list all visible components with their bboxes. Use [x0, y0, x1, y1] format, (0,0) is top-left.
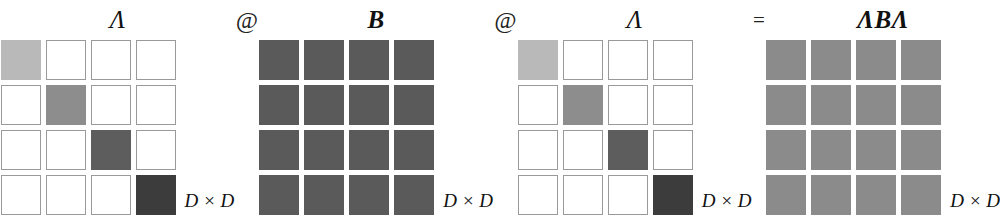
matrix-cell — [259, 130, 299, 170]
matrix-grid-lambda-left — [1, 40, 176, 215]
matrix-block-b: B D × D — [259, 0, 493, 215]
matrix-cell — [259, 40, 299, 80]
matrix-block-result: ΛBΛ D × D — [766, 0, 1000, 215]
matrix-cell — [563, 85, 603, 125]
matrix-cell — [349, 85, 389, 125]
matrix-label-b: B — [368, 0, 385, 40]
dimension-label-lambda-right: D × D — [693, 191, 752, 215]
matrix-cell — [91, 130, 131, 170]
matrix-label-lambda-right: Λ — [627, 0, 643, 40]
matrix-block-lambda-left: Λ D × D — [1, 0, 235, 215]
matrix-cell — [91, 85, 131, 125]
operator-matmul-2: @ — [494, 0, 516, 40]
matrix-cell — [563, 130, 603, 170]
matrix-cell — [563, 175, 603, 215]
matrix-cell — [394, 130, 434, 170]
matrix-cell — [1, 130, 41, 170]
matrix-cell — [518, 85, 558, 125]
matrix-cell — [304, 40, 344, 80]
grid-and-dims-lambda-right: D × D — [518, 40, 752, 215]
matrix-cell — [46, 130, 86, 170]
matrix-cell — [1, 175, 41, 215]
dimension-label-lambda-left: D × D — [176, 191, 235, 215]
matrix-cell — [1, 40, 41, 80]
matrix-cell — [349, 175, 389, 215]
dimension-label-result: D × D — [941, 191, 1000, 215]
matrix-cell — [811, 85, 851, 125]
matrix-cell — [901, 130, 941, 170]
matrix-equation-diagram: Λ D × D @ B D × D @ Λ D × D = ΛBΛ — [0, 0, 1000, 223]
matrix-cell — [136, 175, 176, 215]
matrix-cell — [608, 175, 648, 215]
matrix-cell — [136, 130, 176, 170]
matrix-cell — [91, 175, 131, 215]
grid-and-dims-b: D × D — [259, 40, 493, 215]
matrix-cell — [811, 175, 851, 215]
matrix-cell — [856, 40, 896, 80]
matrix-cell — [856, 175, 896, 215]
matrix-cell — [653, 40, 693, 80]
matrix-cell — [811, 130, 851, 170]
matrix-cell — [349, 130, 389, 170]
matrix-cell — [563, 40, 603, 80]
matrix-cell — [518, 40, 558, 80]
matrix-cell — [901, 85, 941, 125]
matrix-cell — [349, 40, 389, 80]
matrix-cell — [136, 85, 176, 125]
matrix-cell — [766, 85, 806, 125]
matrix-cell — [1, 85, 41, 125]
matrix-cell — [259, 85, 299, 125]
matrix-cell — [46, 85, 86, 125]
matrix-cell — [259, 175, 299, 215]
matrix-cell — [304, 175, 344, 215]
matrix-cell — [811, 40, 851, 80]
matrix-cell — [901, 40, 941, 80]
matrix-cell — [856, 130, 896, 170]
matrix-cell — [304, 130, 344, 170]
matrix-cell — [136, 40, 176, 80]
matrix-label-result: ΛBΛ — [857, 0, 909, 40]
matrix-cell — [608, 130, 648, 170]
grid-and-dims-lambda-left: D × D — [1, 40, 235, 215]
operator-matmul-1: @ — [236, 0, 258, 40]
matrix-cell — [394, 40, 434, 80]
grid-and-dims-result: D × D — [766, 40, 1000, 215]
matrix-grid-b — [259, 40, 434, 215]
matrix-grid-lambda-right — [518, 40, 693, 215]
matrix-cell — [304, 85, 344, 125]
matrix-block-lambda-right: Λ D × D — [518, 0, 752, 215]
matrix-label-lambda-left: Λ — [110, 0, 126, 40]
matrix-cell — [608, 40, 648, 80]
dimension-label-b: D × D — [434, 191, 493, 215]
matrix-cell — [856, 85, 896, 125]
matrix-cell — [46, 40, 86, 80]
matrix-cell — [766, 130, 806, 170]
matrix-cell — [653, 130, 693, 170]
matrix-cell — [766, 175, 806, 215]
matrix-grid-result — [766, 40, 941, 215]
matrix-cell — [518, 130, 558, 170]
matrix-cell — [394, 175, 434, 215]
matrix-cell — [46, 175, 86, 215]
matrix-cell — [766, 40, 806, 80]
matrix-cell — [653, 175, 693, 215]
matrix-cell — [518, 175, 558, 215]
matrix-cell — [653, 85, 693, 125]
matrix-cell — [901, 175, 941, 215]
operator-equals: = — [753, 0, 765, 40]
matrix-cell — [608, 85, 648, 125]
matrix-cell — [394, 85, 434, 125]
matrix-cell — [91, 40, 131, 80]
